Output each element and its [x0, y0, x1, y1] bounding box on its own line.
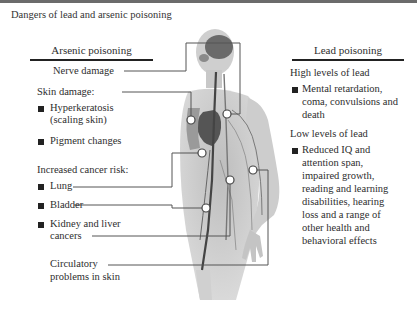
low-lead-line-7: other health and: [302, 222, 370, 234]
circulatory-label-line2: problems in skin: [50, 271, 120, 283]
skin-item-hyperkeratosis: Hyperkeratosis: [50, 102, 114, 114]
skin-item-pigment: Pigment changes: [50, 135, 121, 147]
low-lead-line-2: attention span,: [302, 157, 363, 169]
nerve-damage-label: Nerve damage: [53, 65, 114, 77]
cancer-item-lung: Lung: [50, 180, 72, 192]
bullet-icon: [292, 148, 298, 154]
cancer-item-kidney-liver: Kidney and liver: [50, 218, 121, 230]
skin-item-hyperkeratosis-note: (scaling skin): [50, 114, 107, 126]
cancer-item-bladder: Bladder: [50, 199, 83, 211]
arsenic-header: Arsenic poisoning: [30, 44, 153, 56]
cancer-item-kidney-liver-cont: cancers: [50, 230, 81, 242]
marker-nerve: [223, 110, 231, 118]
cancer-risk-heading: Increased cancer risk:: [37, 164, 129, 176]
bullet-icon: [38, 139, 44, 145]
low-lead-line-6: loss and a range of: [302, 209, 381, 221]
bullet-icon: [38, 222, 44, 228]
low-lead-line-5: disabilities, hearing: [302, 196, 384, 208]
high-lead-line-2: coma, convulsions and: [302, 96, 398, 108]
bullet-icon: [292, 87, 298, 93]
arsenic-header-rule: [30, 59, 153, 61]
bullet-icon: [38, 184, 44, 190]
low-lead-line-1: Reduced IQ and: [302, 144, 370, 156]
lead-header: Lead poisoning: [292, 44, 404, 56]
marker-circulatory: [249, 166, 257, 174]
high-lead-line-3: death: [302, 109, 325, 121]
bullet-icon: [38, 203, 44, 209]
circulatory-label-line1: Circulatory: [50, 258, 98, 270]
bullet-icon: [38, 106, 44, 112]
marker-kidney-liver: [226, 176, 234, 184]
low-lead-line-8: behavioral effects: [302, 235, 377, 247]
skin-damage-heading: Skin damage:: [37, 86, 94, 98]
lead-header-rule: [292, 59, 404, 61]
marker-bladder: [202, 204, 210, 212]
body-silhouette: [180, 29, 279, 300]
high-lead-heading: High levels of lead: [290, 67, 370, 79]
high-lead-line-1: Mental retardation,: [302, 83, 382, 95]
low-lead-line-4: reading and learning: [302, 183, 388, 195]
marker-lung: [198, 149, 206, 157]
marker-skin: [187, 116, 195, 124]
low-lead-heading: Low levels of lead: [290, 128, 368, 140]
low-lead-line-3: impaired growth,: [302, 170, 374, 182]
